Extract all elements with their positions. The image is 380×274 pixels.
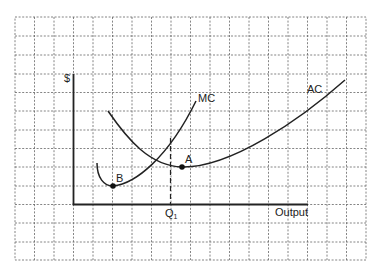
grid xyxy=(15,17,366,260)
mc-label: MC xyxy=(198,92,215,104)
point-a xyxy=(179,164,185,170)
q1-label: Q1 xyxy=(165,207,178,220)
y-axis-label: $ xyxy=(64,72,70,84)
ac-label: AC xyxy=(307,83,322,95)
cost-curves-diagram: $ Output MC AC A B Q1 xyxy=(0,0,380,274)
q1-label-subscript: 1 xyxy=(174,213,178,220)
mc-curve xyxy=(97,101,196,186)
point-a-label: A xyxy=(185,153,193,165)
point-b-label: B xyxy=(116,172,123,184)
point-b xyxy=(110,183,116,189)
x-axis-label: Output xyxy=(275,206,308,218)
